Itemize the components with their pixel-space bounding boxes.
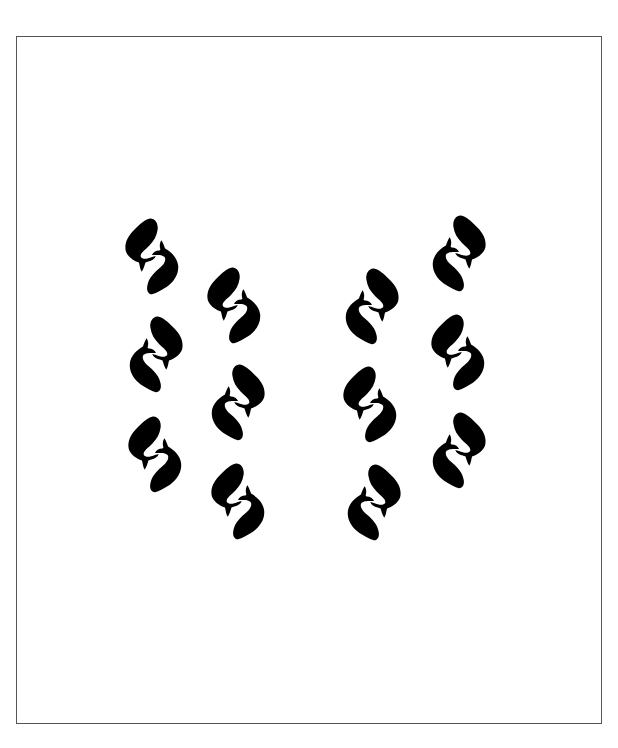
upper-fish-shape xyxy=(211,464,243,517)
lower-fish-shape xyxy=(130,338,161,392)
fish-pair-icon-5 xyxy=(210,361,266,443)
fish-pair-icon-8 xyxy=(342,363,398,445)
lower-fish-shape xyxy=(229,289,260,343)
lower-fish-shape xyxy=(348,486,379,540)
upper-fish-shape xyxy=(128,417,160,470)
lower-fish-shape xyxy=(147,240,178,294)
upper-fish-shape xyxy=(125,219,157,272)
upper-fish-shape xyxy=(431,315,463,368)
fish-pair-icon-12 xyxy=(431,409,487,491)
upper-fish-shape xyxy=(368,465,400,518)
lower-fish-shape xyxy=(453,336,484,390)
fish-pair-icon-4 xyxy=(206,264,262,346)
upper-fish-shape xyxy=(343,367,375,420)
lower-fish-shape xyxy=(433,237,464,291)
upper-fish-shape xyxy=(207,268,239,321)
fish-pair-icon-1 xyxy=(124,215,180,297)
fish-pair-icon-7 xyxy=(344,265,400,347)
upper-fish-shape xyxy=(453,413,485,466)
fish-pair-icon-10 xyxy=(431,212,487,294)
upper-fish-shape xyxy=(232,365,264,418)
fish-pair-icon-11 xyxy=(430,311,486,393)
lower-fish-shape xyxy=(233,485,264,539)
upper-fish-shape xyxy=(150,317,182,370)
fish-pair-icon-9 xyxy=(346,461,402,543)
fish-pair-icon-3 xyxy=(127,413,183,495)
upper-fish-shape xyxy=(366,269,398,322)
lower-fish-shape xyxy=(150,438,181,492)
fish-pair-icon-6 xyxy=(210,460,266,542)
lower-fish-shape xyxy=(433,434,464,488)
lower-fish-shape xyxy=(346,290,377,344)
lower-fish-shape xyxy=(365,388,396,442)
page-frame xyxy=(16,36,602,724)
lower-fish-shape xyxy=(212,386,243,440)
upper-fish-shape xyxy=(453,216,485,269)
fish-pair-icon-2 xyxy=(128,313,184,395)
